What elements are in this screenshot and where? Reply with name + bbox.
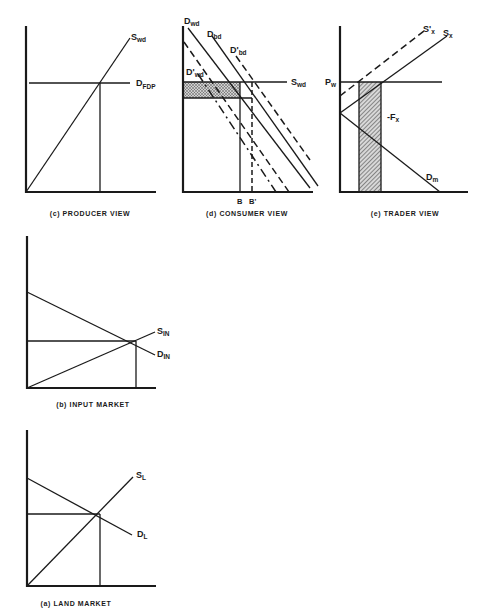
demand-curve-dwd — [188, 28, 310, 188]
demand-curve-dbd — [212, 36, 318, 186]
supply-curve-sl — [27, 477, 133, 586]
label-dbd: Dbd — [207, 29, 221, 40]
label-b: B — [237, 197, 243, 206]
demand-curve-dm — [340, 113, 440, 192]
demand-curve-dbd-prime — [236, 56, 310, 160]
label-din: DIN — [157, 349, 170, 360]
supply-curve-sx — [340, 36, 447, 113]
label-b-prime: B' — [249, 197, 256, 206]
label-sl: SL — [136, 470, 146, 481]
panel-land-market: SL DL (a) LAND MARKET — [26, 430, 156, 608]
label-dbd-prime: D'bd — [230, 45, 247, 56]
supply-curve-sx-prime — [340, 31, 424, 96]
panel-producer-view: Swd DFDP (c) PRODUCER VIEW — [25, 26, 156, 218]
caption-producer-view: (c) PRODUCER VIEW — [50, 210, 131, 218]
panel-input-market: SIN DIN (b) INPUT MARKET — [26, 236, 170, 409]
caption-consumer-view: (d) CONSUMER VIEW — [206, 210, 288, 218]
label-sx: Sx — [443, 28, 453, 39]
label-swd: Swd — [291, 77, 306, 88]
supply-curve-swd — [26, 38, 130, 192]
panel-consumer-view: Dwd Dbd D'bd D'wd Swd B B' (d) CONSUMER … — [182, 16, 318, 218]
label-sx-prime: S'x — [423, 24, 435, 35]
label-fx: -Fx — [387, 112, 400, 123]
label-dm: Dm — [426, 172, 439, 183]
label-dl: DL — [137, 529, 148, 540]
label-dwd: Dwd — [184, 16, 200, 27]
caption-input-market: (b) INPUT MARKET — [56, 401, 129, 409]
label-dfdp: DFDP — [136, 78, 156, 90]
label-swd: Swd — [131, 32, 146, 43]
label-dwd-prime: D'wd — [186, 67, 204, 78]
caption-land-market: (a) LAND MARKET — [41, 600, 112, 608]
caption-trader-view: (e) TRADER VIEW — [371, 210, 440, 218]
label-sin: SIN — [157, 326, 170, 337]
label-pw: Pw — [325, 77, 337, 88]
panel-trader-view: S'x Sx Pw -Fx Dm (e) TRADER VIEW — [325, 24, 468, 218]
demand-curve-dwd-prime — [184, 42, 289, 192]
demand-curve-dl — [27, 478, 132, 535]
